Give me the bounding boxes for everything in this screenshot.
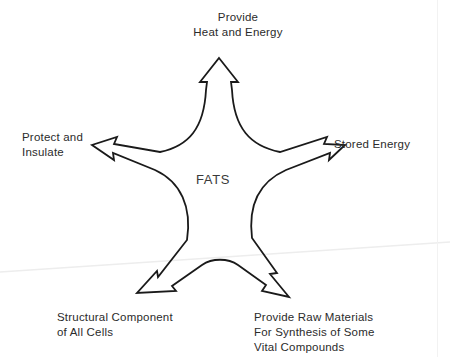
node-label-right: Stored Energy — [334, 137, 444, 152]
scan-artifact-line — [0, 242, 450, 272]
center-label-fats: FATS — [196, 172, 230, 187]
diagram-canvas: Provide Heat and Energy Protect and Insu… — [0, 0, 450, 357]
page-edge-artifact — [437, 0, 438, 357]
node-label-left: Protect and Insulate — [22, 130, 132, 160]
node-label-bottom-right: Provide Raw Materials For Synthesis of S… — [254, 310, 424, 355]
node-label-bottom-left: Structural Component of All Cells — [57, 310, 207, 340]
node-label-top: Provide Heat and Energy — [178, 10, 298, 40]
